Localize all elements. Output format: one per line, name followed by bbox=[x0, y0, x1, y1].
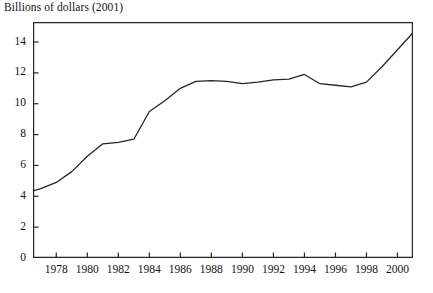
y-tick-label: 4 bbox=[2, 189, 26, 201]
chart-figure: Billions of dollars (2001) 02468101214 1… bbox=[0, 0, 433, 293]
y-tick-label: 6 bbox=[2, 158, 26, 170]
line-chart-svg bbox=[33, 22, 413, 258]
chart-axis-title: Billions of dollars (2001) bbox=[4, 1, 123, 13]
y-tick-label: 10 bbox=[2, 96, 26, 108]
x-tick-label: 2000 bbox=[377, 263, 417, 275]
y-tick-label: 12 bbox=[2, 65, 26, 77]
y-tick-label: 2 bbox=[2, 220, 26, 232]
axis-frame-path bbox=[34, 23, 413, 258]
plot-area: 02468101214 1978198019821984198619881990… bbox=[33, 22, 413, 258]
data-series-line bbox=[33, 33, 413, 191]
y-tick-label: 8 bbox=[2, 127, 26, 139]
y-tick-label: 14 bbox=[2, 35, 26, 47]
y-tick-label: 0 bbox=[2, 251, 26, 263]
plot-frame bbox=[34, 23, 413, 258]
